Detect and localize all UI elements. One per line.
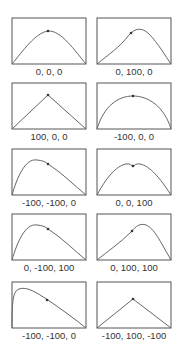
curve-plot — [11, 17, 87, 65]
panel-label: 0, 0, 0 — [3, 66, 95, 78]
curve-plot — [96, 148, 172, 196]
panel-4: -100, -100, 0 — [11, 148, 87, 210]
panel-6: 0, -100, 100 — [11, 213, 87, 275]
spline-curve — [97, 224, 171, 260]
spline-curve — [97, 29, 171, 64]
curve-plot — [11, 82, 87, 130]
panel-8: -100, -100, 0 — [11, 281, 87, 343]
key-point-marker — [47, 163, 50, 166]
spline-curve — [12, 225, 86, 260]
panel-1: 0, 100, 0 — [96, 17, 172, 79]
panel-label: -100, -100, 0 — [3, 197, 95, 209]
curve-plot — [96, 213, 172, 261]
spline-curve — [12, 31, 86, 64]
panel-7: 0, 100, 100 — [96, 213, 172, 275]
panel-5: 0, 0, 100 — [96, 148, 172, 210]
spline-curve — [12, 288, 86, 328]
key-point-marker — [132, 298, 135, 301]
spline-curve — [12, 160, 86, 195]
curve-plot — [11, 213, 87, 261]
key-point-marker — [132, 95, 135, 98]
key-point-marker — [47, 94, 50, 97]
panel-label: 0, 100, 0 — [88, 66, 180, 78]
key-point-marker — [130, 32, 133, 35]
curve-plot — [11, 281, 87, 329]
curve-plot — [11, 148, 87, 196]
panel-label: -100, -100, 0 — [3, 330, 95, 342]
panel-label: 100, 0, 0 — [3, 131, 95, 143]
curve-plot — [96, 281, 172, 329]
key-point-marker — [46, 299, 49, 302]
panel-0: 0, 0, 0 — [11, 17, 87, 79]
spline-curve — [97, 164, 171, 195]
panel-label: 0, 0, 100 — [88, 197, 180, 209]
key-point-marker — [47, 228, 50, 231]
key-point-marker — [131, 230, 134, 233]
curve-plot — [96, 82, 172, 130]
panel-2: 100, 0, 0 — [11, 82, 87, 144]
panel-9: -100, 100, -100 — [96, 281, 172, 343]
panel-label: -100, 100, -100 — [88, 330, 180, 342]
panel-label: -100, 0, 0 — [88, 131, 180, 143]
key-point-marker — [132, 165, 135, 168]
panel-3: -100, 0, 0 — [96, 82, 172, 144]
spline-curve — [97, 299, 171, 328]
spline-curve — [12, 95, 86, 129]
panel-label: 0, 100, 100 — [88, 262, 180, 274]
curve-plot — [96, 17, 172, 65]
key-point-marker — [47, 30, 50, 33]
panel-label: 0, -100, 100 — [3, 262, 95, 274]
spline-curve — [97, 96, 171, 129]
